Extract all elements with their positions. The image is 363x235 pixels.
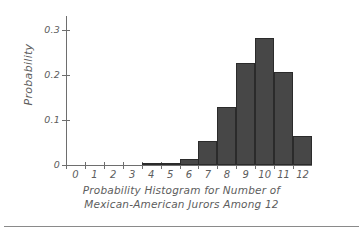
histogram-bar [180,159,199,165]
x-axis-line [66,165,312,166]
caption-line-1: Probability Histogram for Number of [0,183,363,197]
histogram-bar [293,136,312,165]
histogram-bars [66,16,312,165]
histogram-bar [255,38,274,165]
histogram-bar [217,107,236,165]
bottom-divider [4,226,359,227]
y-axis-tick-label: 0.3 [30,24,60,35]
x-axis-tick-label: 12 [292,169,314,180]
probability-histogram-figure: 00.10.20.3 0123456789101112 Probability … [0,0,363,235]
y-axis-tick-label: 0.2 [30,69,60,80]
histogram-bar [236,63,255,165]
histogram-bar [274,72,293,165]
histogram-bar [161,163,180,165]
y-axis-tick-label: 0 [30,159,60,170]
y-axis-tick-label: 0.1 [30,114,60,125]
chart-caption: Probability Histogram for Number of Mexi… [0,183,363,211]
y-axis-title: Probability [22,30,35,120]
histogram-bar [198,141,217,165]
caption-line-2: Mexican-American Jurors Among 12 [0,197,363,211]
histogram-bar [142,163,161,165]
